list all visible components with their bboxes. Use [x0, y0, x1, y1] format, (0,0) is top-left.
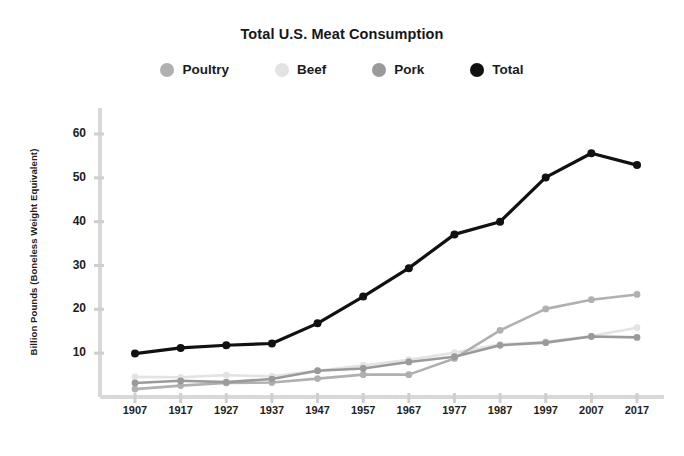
data-point[interactable]	[634, 324, 641, 331]
data-point[interactable]	[360, 365, 367, 372]
data-point[interactable]	[405, 359, 412, 366]
data-point[interactable]	[222, 341, 230, 349]
series-total	[131, 149, 641, 357]
data-point[interactable]	[588, 296, 595, 303]
data-point[interactable]	[314, 375, 321, 382]
data-point[interactable]	[497, 342, 504, 349]
chart-plot-area	[0, 0, 684, 456]
data-point[interactable]	[542, 173, 550, 181]
data-point[interactable]	[132, 373, 139, 380]
data-point[interactable]	[451, 353, 458, 360]
series-poultry	[132, 291, 641, 392]
data-point[interactable]	[360, 371, 367, 378]
data-point[interactable]	[132, 380, 139, 387]
data-point[interactable]	[633, 161, 641, 169]
data-point[interactable]	[542, 339, 549, 346]
series-line-beef	[135, 328, 637, 378]
data-point[interactable]	[405, 264, 413, 272]
data-point[interactable]	[131, 350, 139, 358]
data-point[interactable]	[269, 376, 276, 383]
data-point[interactable]	[634, 334, 641, 341]
data-point[interactable]	[314, 319, 322, 327]
data-point[interactable]	[450, 230, 458, 238]
data-point[interactable]	[497, 327, 504, 334]
data-point[interactable]	[587, 149, 595, 157]
data-point[interactable]	[542, 305, 549, 312]
data-point[interactable]	[223, 372, 230, 379]
chart-container: Total U.S. Meat Consumption PoultryBeefP…	[0, 0, 684, 456]
data-point[interactable]	[132, 386, 139, 393]
series-line-total	[135, 153, 637, 353]
data-point[interactable]	[496, 218, 504, 226]
data-point[interactable]	[223, 379, 230, 386]
data-point[interactable]	[177, 377, 184, 384]
data-point[interactable]	[177, 344, 185, 352]
data-point[interactable]	[314, 367, 321, 374]
data-point[interactable]	[359, 293, 367, 301]
data-point[interactable]	[634, 291, 641, 298]
data-point[interactable]	[588, 333, 595, 340]
data-point[interactable]	[268, 340, 276, 348]
series-pork	[132, 333, 641, 386]
data-point[interactable]	[405, 371, 412, 378]
series-beef	[132, 324, 641, 380]
